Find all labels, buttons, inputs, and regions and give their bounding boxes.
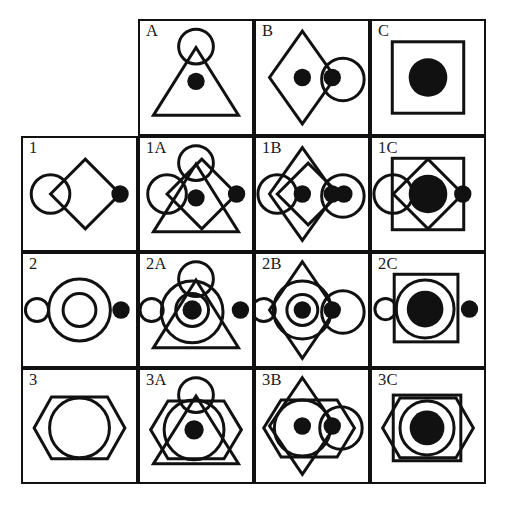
cell-label-1B: 1B xyxy=(262,139,282,157)
outer-circle xyxy=(49,279,111,341)
art-1 xyxy=(23,138,136,250)
cell-2B[interactable]: 2B xyxy=(254,252,370,368)
large-filled-circle xyxy=(407,291,444,328)
cell-2[interactable]: 2 xyxy=(21,252,138,368)
hexagon xyxy=(34,397,125,459)
center-dot xyxy=(184,420,203,439)
shape-matrix-figure: A B C xyxy=(0,0,508,518)
large-filled-circle xyxy=(410,411,445,446)
cell-label-A: A xyxy=(146,22,158,40)
horizontal-diamond xyxy=(51,159,121,229)
cell-A[interactable]: A xyxy=(138,19,254,136)
matrix-grid: A B C xyxy=(21,19,486,484)
art-3 xyxy=(23,370,136,482)
right-dot xyxy=(324,69,341,86)
right-filled-dot xyxy=(232,301,249,318)
cell-3C[interactable]: 3C xyxy=(370,368,486,484)
inner-circle xyxy=(63,294,96,327)
cell-label-B: B xyxy=(262,22,273,40)
cell-2A[interactable]: 2A xyxy=(138,252,254,368)
right-filled-dot xyxy=(228,185,245,202)
cell-C[interactable]: C xyxy=(370,19,486,136)
small-left-circle xyxy=(140,298,163,321)
cell-label-3C: 3C xyxy=(378,371,398,389)
art-2 xyxy=(23,254,136,366)
large-filled-circle xyxy=(409,58,448,97)
cell-label-2B: 2B xyxy=(262,255,282,273)
cell-label-3: 3 xyxy=(29,371,37,389)
cell-3[interactable]: 3 xyxy=(21,368,138,484)
right-filled-dot xyxy=(335,185,352,202)
center-dot xyxy=(187,73,204,90)
cell-label-3A: 3A xyxy=(146,371,167,389)
center-dot xyxy=(294,69,311,86)
cell-1B[interactable]: 1B xyxy=(254,136,370,252)
cell-label-2: 2 xyxy=(29,255,37,273)
center-dot xyxy=(294,417,311,434)
cell-2C[interactable]: 2C xyxy=(370,252,486,368)
cell-3B[interactable]: 3B xyxy=(254,368,370,484)
cell-3A[interactable]: 3A xyxy=(138,368,254,484)
cell-1C[interactable]: 1C xyxy=(370,136,486,252)
cell-corner-blank xyxy=(21,19,138,136)
inner-circle xyxy=(50,398,110,458)
cell-label-2C: 2C xyxy=(378,255,398,273)
small-left-circle xyxy=(25,298,48,321)
right-filled-dot xyxy=(454,185,471,202)
cell-1[interactable]: 1 xyxy=(21,136,138,252)
cell-label-C: C xyxy=(378,22,389,40)
cell-label-1: 1 xyxy=(29,139,37,157)
right-filled-dot xyxy=(461,300,478,317)
right-dot xyxy=(324,417,341,434)
center-dot xyxy=(187,189,204,206)
center-dot xyxy=(182,300,201,319)
right-filled-dot xyxy=(111,185,128,202)
center-dot xyxy=(294,185,311,202)
cell-label-1A: 1A xyxy=(146,139,167,157)
cell-label-2A: 2A xyxy=(146,255,167,273)
cell-label-3B: 3B xyxy=(262,371,282,389)
cell-1A[interactable]: 1A xyxy=(138,136,254,252)
right-filled-dot xyxy=(112,301,129,318)
cell-label-1C: 1C xyxy=(378,139,398,157)
large-filled-circle xyxy=(409,175,448,214)
center-dot xyxy=(294,301,311,318)
right-dot xyxy=(324,301,341,318)
cell-B[interactable]: B xyxy=(254,19,370,136)
